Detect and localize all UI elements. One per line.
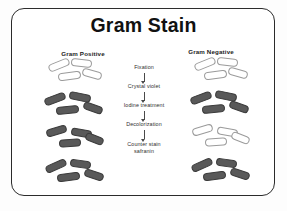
- bacterium-rod-icon: [230, 131, 251, 146]
- bacterium-rod-icon: [228, 100, 250, 114]
- bacterium-rod-icon: [191, 123, 213, 136]
- bacterium-rod-icon: [217, 57, 239, 67]
- bacterium-rod-icon: [229, 167, 250, 181]
- bacteria-cluster: [184, 157, 266, 190]
- bacterium-rod-icon: [81, 67, 102, 80]
- bacterium-rod-icon: [189, 90, 212, 105]
- bacterium-rod-icon: [205, 137, 228, 147]
- slide-canvas: Gram Stain Gram Positive Gram Negative F…: [0, 0, 287, 211]
- column-heading-gram-positive: Gram Positive: [38, 50, 128, 57]
- bacterium-rod-icon: [56, 105, 80, 115]
- bacterium-rod-icon: [202, 104, 226, 114]
- arrow-down-icon: [144, 92, 145, 101]
- bacterium-rod-icon: [43, 91, 66, 106]
- bacterium-rod-icon: [83, 168, 104, 182]
- bacterium-rod-icon: [47, 57, 70, 73]
- process-step: Fixation: [105, 64, 183, 71]
- bacterium-rod-icon: [216, 158, 238, 169]
- bacteria-cluster: [184, 91, 266, 124]
- arrow-down-icon: [144, 111, 145, 120]
- bacterium-rod-icon: [203, 171, 227, 182]
- bacterium-rod-icon: [82, 101, 104, 115]
- column-heading-gram-negative: Gram Negative: [166, 48, 256, 55]
- bacterium-rod-icon: [193, 56, 216, 72]
- arrow-down-icon: [144, 73, 145, 82]
- process-step: Counter stainsafranin: [105, 141, 183, 155]
- bacterium-rod-icon: [58, 70, 82, 81]
- bacteria-cluster: [184, 124, 266, 157]
- gram-negative-cell-column: [184, 58, 266, 191]
- bacterium-rod-icon: [59, 138, 82, 148]
- bacterium-rod-icon: [57, 172, 81, 183]
- page-title: Gram Stain: [0, 14, 287, 37]
- bacterium-rod-icon: [70, 159, 92, 170]
- bacterium-rod-icon: [44, 158, 67, 174]
- bacteria-cluster: [38, 158, 120, 191]
- bacterium-rod-icon: [45, 124, 67, 137]
- staining-process-flow: FixationCrystal violetIodine treatmentDe…: [105, 64, 183, 155]
- bacterium-rod-icon: [227, 66, 248, 79]
- bacterium-rod-icon: [190, 157, 213, 173]
- bacterium-rod-icon: [84, 132, 105, 147]
- bacteria-cluster: [184, 58, 266, 91]
- bacterium-rod-icon: [204, 69, 228, 80]
- bacterium-rod-icon: [71, 58, 93, 68]
- arrow-down-icon: [144, 130, 145, 139]
